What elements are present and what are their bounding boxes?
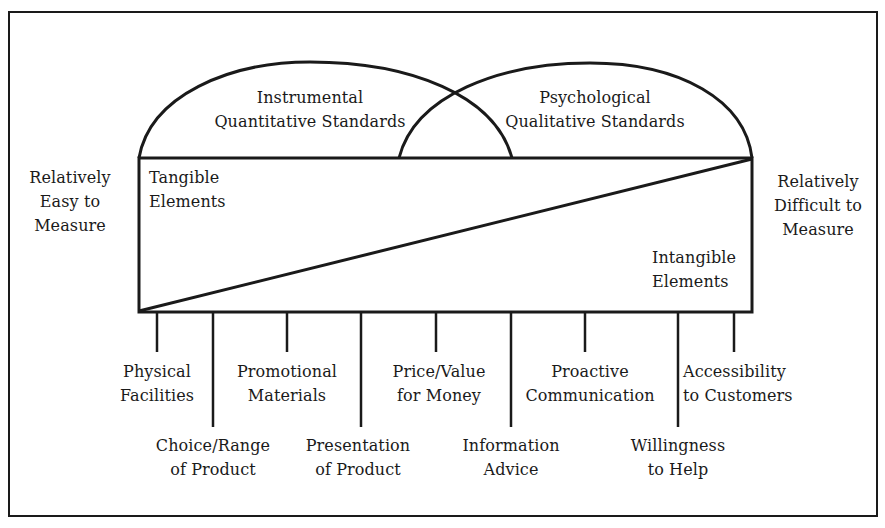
factor-line1: Willingness <box>613 434 743 458</box>
diagram-lines <box>0 0 885 528</box>
difficult-line3: Measure <box>758 218 878 242</box>
factor-line2: for Money <box>369 384 509 408</box>
easy-line1: Relatively <box>10 166 130 190</box>
instrumental-line2: Quantitative Standards <box>150 110 470 134</box>
instrumental-line1: Instrumental <box>150 86 470 110</box>
factor-line2: Communication <box>514 384 666 408</box>
factor-line2: of Product <box>288 458 428 482</box>
psychological-standards-label: Psychological Qualitative Standards <box>470 86 720 134</box>
factor-line1: Proactive <box>514 360 666 384</box>
intangible-elements-label: Intangible Elements <box>652 246 736 294</box>
factor-line2: to Customers <box>683 384 793 408</box>
tangible-line1: Tangible <box>149 166 226 190</box>
tangible-elements-label: Tangible Elements <box>149 166 226 214</box>
factor-line1: Physical <box>97 360 217 384</box>
factor-line1: Presentation <box>288 434 428 458</box>
factor-line2: Facilities <box>97 384 217 408</box>
easy-line2: Easy to <box>10 190 130 214</box>
factor-accessibility: Accessibility to Customers <box>683 360 793 408</box>
psychological-line2: Qualitative Standards <box>470 110 720 134</box>
factor-line1: Information <box>446 434 576 458</box>
difficult-to-measure-label: Relatively Difficult to Measure <box>758 170 878 242</box>
psychological-line1: Psychological <box>470 86 720 110</box>
factor-willingness-to-help: Willingness to Help <box>613 434 743 482</box>
tangible-line2: Elements <box>149 190 226 214</box>
difficult-line2: Difficult to <box>758 194 878 218</box>
factor-line2: of Product <box>143 458 283 482</box>
factor-line1: Accessibility <box>683 360 793 384</box>
factor-promotional-materials: Promotional Materials <box>217 360 357 408</box>
factor-information-advice: Information Advice <box>446 434 576 482</box>
difficult-line1: Relatively <box>758 170 878 194</box>
factor-choice-range: Choice/Range of Product <box>143 434 283 482</box>
intangible-line1: Intangible <box>652 246 736 270</box>
easy-line3: Measure <box>10 214 130 238</box>
factor-line2: Advice <box>446 458 576 482</box>
instrumental-standards-label: Instrumental Quantitative Standards <box>150 86 470 134</box>
factor-physical-facilities: Physical Facilities <box>97 360 217 408</box>
service-quality-diagram: Instrumental Quantitative Standards Psyc… <box>0 0 885 528</box>
factor-line1: Choice/Range <box>143 434 283 458</box>
easy-to-measure-label: Relatively Easy to Measure <box>10 166 130 238</box>
intangible-line2: Elements <box>652 270 736 294</box>
factor-presentation: Presentation of Product <box>288 434 428 482</box>
factor-line1: Price/Value <box>369 360 509 384</box>
factor-price-value: Price/Value for Money <box>369 360 509 408</box>
factor-line2: Materials <box>217 384 357 408</box>
factor-line2: to Help <box>613 458 743 482</box>
factor-line1: Promotional <box>217 360 357 384</box>
factor-proactive-communication: Proactive Communication <box>514 360 666 408</box>
